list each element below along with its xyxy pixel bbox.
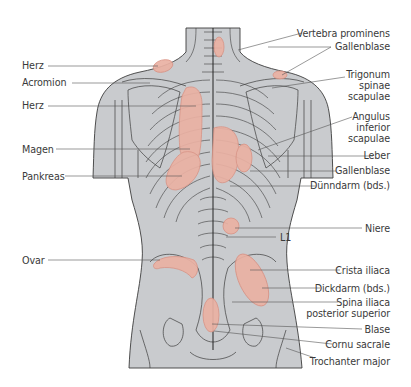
- label-leber: Leber: [363, 150, 390, 161]
- zone-gallenblase-shoulder: [273, 71, 287, 79]
- label-dickdarm: Dickdarm (bds.): [315, 283, 390, 294]
- zone-niere: [223, 218, 239, 234]
- label-vertebra-prominens: Vertebra prominens: [297, 28, 390, 39]
- label-magen: Magen: [22, 144, 54, 155]
- label-acromion: Acromion: [22, 77, 66, 88]
- label-l1: L1: [280, 232, 291, 243]
- label-herz-shoulder: Herz: [22, 60, 44, 71]
- label-blase: Blase: [364, 324, 390, 335]
- label-trochanter-major: Trochanter major: [310, 356, 390, 367]
- label-cornu-sacrale: Cornu sacrale: [325, 339, 390, 350]
- label-niere: Niere: [365, 223, 390, 234]
- label-gallenblase-back: Gallenblase: [335, 165, 390, 176]
- label-trigonum-spinae-scapulae: Trigonum spinae scapulae: [346, 69, 390, 102]
- label-pankreas: Pankreas: [22, 171, 65, 182]
- zone-herz-back: [179, 87, 202, 161]
- body-back-illustration: [0, 0, 411, 387]
- zone-gallenblase-neck: [214, 37, 224, 57]
- label-duenndarm: Dünndarm (bds.): [310, 180, 390, 191]
- label-ovar: Ovar: [22, 255, 45, 266]
- label-herz-back: Herz: [22, 100, 44, 111]
- label-spina-iliaca-posterior-superior: Spina iliaca posterior superior: [306, 297, 390, 319]
- zone-blase: [203, 298, 219, 332]
- label-gallenblase-neck: Gallenblase: [335, 41, 390, 52]
- zone-gallenblase-back: [236, 144, 252, 172]
- label-crista-iliaca: Crista iliaca: [335, 265, 390, 276]
- referred-pain-zones-diagram: Herz Acromion Herz Magen Pankreas Ovar V…: [0, 0, 411, 387]
- label-angulus-inferior-scapulae: Angulus inferior scapulae: [348, 111, 390, 144]
